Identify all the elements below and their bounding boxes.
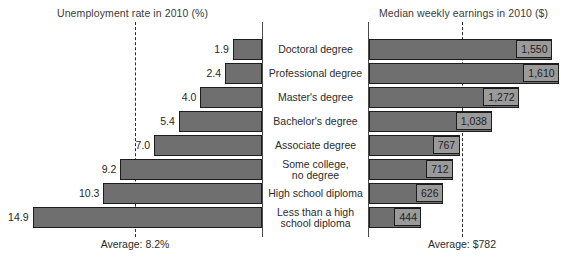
unemployment-value-label: 2.4 xyxy=(206,65,221,81)
unemployment-bar xyxy=(179,111,262,132)
category-label: Associate degree xyxy=(266,134,365,158)
chart-row: 2.4Professional degree1,610 xyxy=(0,62,561,86)
right-panel-title: Median weekly earnings in 2010 ($) xyxy=(379,7,548,19)
category-label: Less than a highschool diploma xyxy=(266,206,365,230)
chart-row: 14.9Less than a highschool diploma444 xyxy=(0,206,561,230)
category-label: Bachelor's degree xyxy=(266,110,365,134)
earnings-value-label: 712 xyxy=(426,160,453,178)
earnings-value-label: 444 xyxy=(394,208,421,226)
unemployment-value-label: 5.4 xyxy=(160,113,175,129)
category-label: High school diploma xyxy=(266,182,365,206)
earnings-value-label: 767 xyxy=(433,136,460,154)
unemployment-bar xyxy=(120,159,262,180)
earnings-value-label: 1,610 xyxy=(523,64,559,82)
education-pay-chart: Unemployment rate in 2010 (%) Median wee… xyxy=(0,0,561,259)
left-average-label: Average: 8.2% xyxy=(101,238,170,250)
earnings-value-label: 1,272 xyxy=(483,88,519,106)
category-label: Some college,no degree xyxy=(266,158,365,182)
chart-row: 9.2Some college,no degree712 xyxy=(0,158,561,182)
unemployment-value-label: 1.9 xyxy=(214,41,229,57)
category-label: Doctoral degree xyxy=(266,38,365,62)
unemployment-bar xyxy=(225,63,262,84)
left-panel-title: Unemployment rate in 2010 (%) xyxy=(57,7,208,19)
unemployment-bar xyxy=(33,207,262,228)
unemployment-bar xyxy=(103,183,262,204)
category-label: Professional degree xyxy=(266,62,365,86)
chart-row: 7.0Associate degree767 xyxy=(0,134,561,158)
category-label: Master's degree xyxy=(266,86,365,110)
earnings-value-label: 1,550 xyxy=(516,40,552,58)
unemployment-value-label: 9.2 xyxy=(102,161,117,177)
unemployment-bar xyxy=(154,135,262,156)
unemployment-bar xyxy=(200,87,262,108)
unemployment-value-label: 4.0 xyxy=(182,89,197,105)
chart-row: 4.0Master's degree1,272 xyxy=(0,86,561,110)
unemployment-bar xyxy=(233,39,262,60)
unemployment-value-label: 10.3 xyxy=(79,185,99,201)
unemployment-value-label: 7.0 xyxy=(136,137,151,153)
earnings-value-label: 626 xyxy=(416,184,443,202)
earnings-value-label: 1,038 xyxy=(456,112,492,130)
chart-row: 1.9Doctoral degree1,550 xyxy=(0,38,561,62)
right-average-label: Average: $782 xyxy=(428,238,496,250)
unemployment-value-label: 14.9 xyxy=(8,209,28,225)
chart-row: 5.4Bachelor's degree1,038 xyxy=(0,110,561,134)
chart-row: 10.3High school diploma626 xyxy=(0,182,561,206)
